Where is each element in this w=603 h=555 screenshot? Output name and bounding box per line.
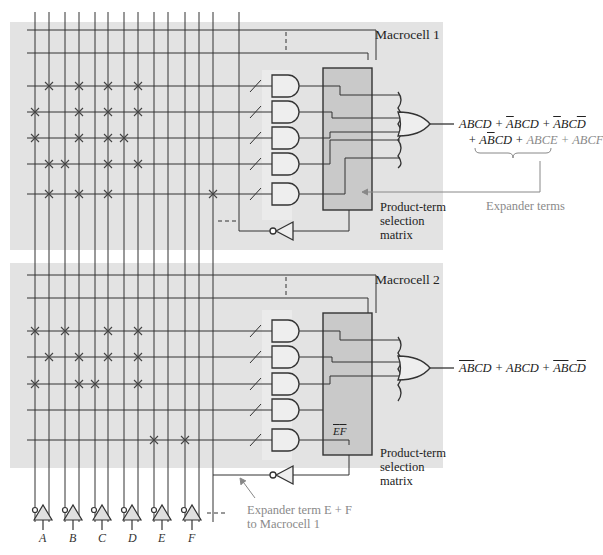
input-label-a: A (39, 531, 46, 546)
macrocell-2-title: Macrocell 2 (375, 273, 440, 287)
expander-terms-expression: ABCE + ABCF (526, 133, 603, 147)
macrocell-1-output-expression-line1: ABCD + ABCD + ABCD (459, 117, 586, 131)
input-label-d: D (128, 531, 137, 546)
expander-brace (475, 148, 551, 158)
and-gates-1 (272, 75, 299, 205)
expander-terms-label: Expander terms (486, 199, 565, 213)
input-label-e: E (158, 531, 165, 546)
input-buffers (33, 505, 202, 530)
expander-term-ef-label: Expander term E + F to Macrocell 1 (247, 503, 352, 531)
input-label-b: B (69, 531, 76, 546)
macrocell-1-panel (10, 22, 443, 250)
matrix-label-1: Product-term selection matrix (380, 200, 446, 242)
matrix-label-2: Product-term selection matrix (380, 446, 446, 488)
input-label-c: C (98, 531, 106, 546)
input-label-f: F (188, 531, 195, 546)
and-gates-2 (272, 320, 299, 451)
inverter-2 (270, 466, 293, 484)
macrocell-1-title: Macrocell 1 (375, 28, 440, 42)
ef-bar-label: EF (333, 424, 346, 438)
macrocell-1-output-expression-line2: + ABCD + ABCE + ABCF (468, 133, 603, 147)
macrocell-2-output-expression: ABCD + ABCD + ABCD (459, 361, 586, 375)
macrocell-2-panel (10, 263, 443, 468)
expander-arrow-2 (240, 478, 255, 498)
product-term-matrix-1 (323, 68, 372, 210)
